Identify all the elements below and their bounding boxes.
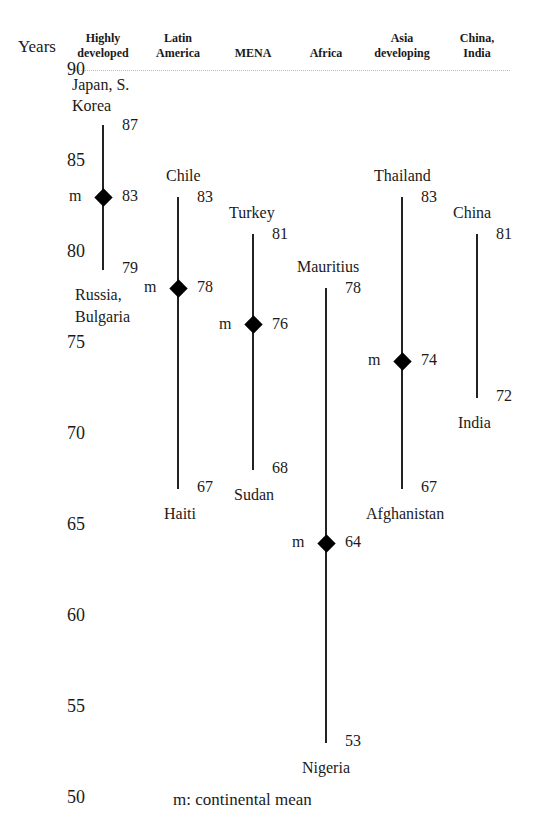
column-header-line: Africa bbox=[310, 46, 343, 61]
max-country-label: Japan, S. bbox=[72, 74, 129, 96]
range-line bbox=[325, 288, 327, 743]
max-value: 83 bbox=[197, 187, 213, 207]
column-header: MENA bbox=[235, 31, 272, 61]
max-country-label: Korea bbox=[72, 95, 111, 117]
mean-marker bbox=[244, 316, 262, 334]
legend-note: m: continental mean bbox=[173, 790, 312, 810]
column-header: Asiadeveloping bbox=[374, 31, 429, 61]
column-header: LatinAmerica bbox=[156, 31, 200, 61]
range-line bbox=[252, 234, 254, 471]
mean-m-label: m bbox=[368, 350, 380, 370]
max-country-label: Turkey bbox=[229, 202, 275, 224]
min-value: 67 bbox=[421, 477, 437, 497]
min-value: 67 bbox=[197, 477, 213, 497]
column-header-line: developing bbox=[374, 46, 429, 61]
y-tick-label: 80 bbox=[45, 241, 85, 261]
min-value: 68 bbox=[272, 458, 288, 478]
y-tick-label: 85 bbox=[45, 150, 85, 170]
max-value: 81 bbox=[496, 224, 512, 244]
mean-value: 83 bbox=[122, 186, 138, 206]
mean-value: 76 bbox=[272, 314, 288, 334]
column-header-line bbox=[310, 31, 343, 46]
mean-marker bbox=[317, 534, 335, 552]
column-header-line: developed bbox=[77, 46, 128, 61]
column-header-line: MENA bbox=[235, 46, 272, 61]
mean-m-label: m bbox=[219, 314, 231, 334]
y-tick-label: 75 bbox=[45, 332, 85, 352]
column-header-line: Highly bbox=[77, 31, 128, 46]
y-tick-label: 60 bbox=[45, 605, 85, 625]
column-header-line: Latin bbox=[156, 31, 200, 46]
mean-value: 64 bbox=[345, 532, 361, 552]
min-country-label: Haiti bbox=[164, 503, 196, 525]
y-tick-label: 65 bbox=[45, 514, 85, 534]
mean-value: 78 bbox=[197, 277, 213, 297]
max-value: 87 bbox=[122, 115, 138, 135]
min-country-label: India bbox=[458, 412, 491, 434]
y-axis-title: Years bbox=[18, 37, 56, 57]
min-country-label: Sudan bbox=[234, 484, 274, 506]
range-line bbox=[401, 197, 403, 488]
max-country-label: Chile bbox=[166, 165, 201, 187]
max-value: 83 bbox=[421, 187, 437, 207]
max-value: 81 bbox=[272, 224, 288, 244]
min-country-label: Russia, bbox=[75, 284, 122, 306]
mean-marker bbox=[169, 279, 187, 297]
y-tick-label: 50 bbox=[45, 787, 85, 807]
max-country-label: Thailand bbox=[374, 165, 431, 187]
min-value: 53 bbox=[345, 731, 361, 751]
max-country-label: Mauritius bbox=[297, 256, 359, 278]
min-value: 72 bbox=[496, 386, 512, 406]
top-baseline bbox=[70, 70, 510, 71]
range-line bbox=[177, 197, 179, 488]
min-country-label: Afghanistan bbox=[366, 503, 444, 525]
mean-marker bbox=[94, 188, 112, 206]
mean-value: 74 bbox=[421, 350, 437, 370]
column-header-line: China, bbox=[460, 31, 494, 46]
range-line bbox=[476, 234, 478, 398]
life-expectancy-range-chart: Years m: continental mean 90858075706560… bbox=[0, 0, 539, 836]
mean-m-label: m bbox=[69, 186, 81, 206]
column-header-line: Asia bbox=[374, 31, 429, 46]
y-tick-label: 55 bbox=[45, 696, 85, 716]
mean-marker bbox=[393, 352, 411, 370]
mean-m-label: m bbox=[144, 277, 156, 297]
min-value: 79 bbox=[122, 258, 138, 278]
max-value: 78 bbox=[345, 278, 361, 298]
mean-m-label: m bbox=[292, 532, 304, 552]
y-tick-label: 70 bbox=[45, 423, 85, 443]
min-country-label: Nigeria bbox=[302, 757, 350, 779]
column-header: China,India bbox=[460, 31, 494, 61]
max-country-label: China bbox=[453, 202, 491, 224]
min-country-label: Bulgaria bbox=[75, 306, 130, 328]
column-header: Africa bbox=[310, 31, 343, 61]
column-header: Highlydeveloped bbox=[77, 31, 128, 61]
column-header-line: India bbox=[460, 46, 494, 61]
column-header-line bbox=[235, 31, 272, 46]
column-header-line: America bbox=[156, 46, 200, 61]
